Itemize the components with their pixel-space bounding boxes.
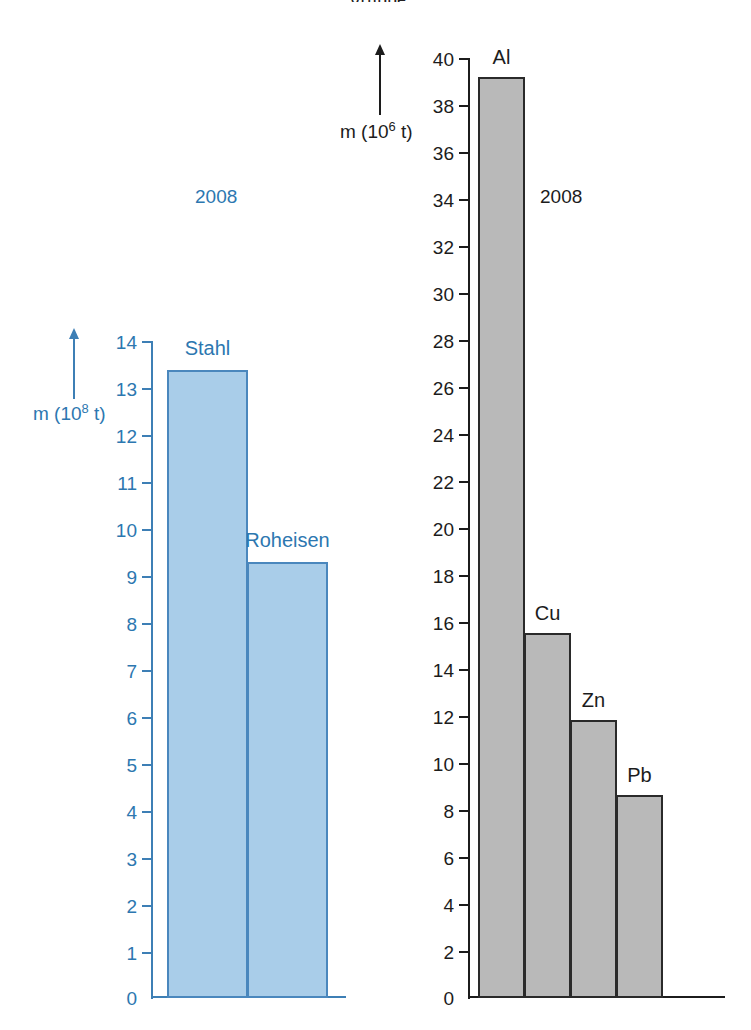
bar-al[interactable] <box>478 77 525 998</box>
chart-page: gruppe m (108 t) 2008 14 13 12 11 10 9 8… <box>0 0 751 1030</box>
y-tick-22 <box>459 481 468 483</box>
y-tick-24 <box>459 434 468 436</box>
y-tick-label-13: 13 <box>99 380 137 399</box>
y-tick-label-8: 8 <box>412 802 454 821</box>
year-label: 2008 <box>195 187 237 206</box>
y-tick-label-40: 40 <box>412 50 454 69</box>
y-tick-40 <box>459 58 468 60</box>
y-tick-11 <box>142 482 151 484</box>
unit-prefix: m (10 <box>340 121 389 142</box>
y-axis-arrow-icon <box>379 53 381 115</box>
y-tick-label-8: 8 <box>99 615 137 634</box>
y-tick-8 <box>459 810 468 812</box>
bar-label-roheisen: Roheisen <box>218 530 357 550</box>
bar-label-zn: Zn <box>570 690 617 710</box>
y-tick-30 <box>459 293 468 295</box>
unit-suffix: t) <box>89 403 106 424</box>
y-tick-5 <box>142 764 151 766</box>
y-tick-label-18: 18 <box>412 567 454 586</box>
y-tick-label-11: 11 <box>99 474 137 493</box>
bar-zn[interactable] <box>570 720 617 998</box>
y-tick-3 <box>142 858 151 860</box>
y-axis-unit-label: m (106 t) <box>340 122 413 141</box>
y-tick-6 <box>142 717 151 719</box>
y-tick-label-6: 6 <box>412 849 454 868</box>
y-axis-unit-label: m (108 t) <box>33 404 106 423</box>
y-tick-2 <box>142 905 151 907</box>
unit-exponent: 6 <box>389 119 396 134</box>
y-tick-13 <box>142 388 151 390</box>
y-tick-label-0: 0 <box>99 989 137 1008</box>
y-tick-32 <box>459 246 468 248</box>
y-tick-16 <box>459 622 468 624</box>
y-tick-9 <box>142 576 151 578</box>
y-tick-label-4: 4 <box>412 896 454 915</box>
y-tick-label-4: 4 <box>99 803 137 822</box>
bar-stahl[interactable] <box>167 370 248 998</box>
y-tick-28 <box>459 340 468 342</box>
y-tick-label-2: 2 <box>412 943 454 962</box>
y-tick-label-10: 10 <box>412 755 454 774</box>
y-tick-label-30: 30 <box>412 285 454 304</box>
y-tick-4 <box>459 904 468 906</box>
y-tick-26 <box>459 387 468 389</box>
unit-exponent: 8 <box>82 401 89 416</box>
y-tick-label-26: 26 <box>412 379 454 398</box>
chart-steel-production: m (108 t) 2008 14 13 12 11 10 9 8 7 6 5 … <box>0 0 400 1030</box>
y-tick-36 <box>459 152 468 154</box>
y-tick-10 <box>459 763 468 765</box>
y-tick-label-16: 16 <box>412 614 454 633</box>
y-tick-18 <box>459 575 468 577</box>
y-tick-label-9: 9 <box>99 568 137 587</box>
y-tick-7 <box>142 670 151 672</box>
y-axis-arrow-icon <box>73 337 75 399</box>
y-tick-label-22: 22 <box>412 473 454 492</box>
year-label: 2008 <box>540 187 582 206</box>
y-tick-label-38: 38 <box>412 97 454 116</box>
y-tick-2 <box>459 951 468 953</box>
chart-nonferrous-production: m (106 t) 2008 40 38 36 34 32 30 28 26 2… <box>355 0 751 1030</box>
y-tick-38 <box>459 105 468 107</box>
y-axis-line <box>468 58 470 999</box>
y-tick-label-20: 20 <box>412 520 454 539</box>
y-tick-label-0: 0 <box>412 989 454 1008</box>
y-tick-12 <box>142 435 151 437</box>
y-tick-label-2: 2 <box>99 897 137 916</box>
y-tick-34 <box>459 199 468 201</box>
y-tick-1 <box>142 952 151 954</box>
bar-label-al: Al <box>478 47 525 67</box>
y-tick-label-28: 28 <box>412 332 454 351</box>
y-tick-label-6: 6 <box>99 709 137 728</box>
y-tick-label-14: 14 <box>412 661 454 680</box>
y-tick-20 <box>459 528 468 530</box>
y-tick-label-24: 24 <box>412 426 454 445</box>
y-tick-label-7: 7 <box>99 662 137 681</box>
y-tick-label-12: 12 <box>99 427 137 446</box>
bar-label-stahl: Stahl <box>167 338 248 358</box>
y-tick-label-14: 14 <box>99 333 137 352</box>
y-tick-14 <box>459 669 468 671</box>
y-tick-label-3: 3 <box>99 850 137 869</box>
y-tick-12 <box>459 716 468 718</box>
y-tick-label-10: 10 <box>99 521 137 540</box>
y-tick-4 <box>142 811 151 813</box>
unit-suffix: t) <box>396 121 413 142</box>
y-tick-6 <box>459 857 468 859</box>
bar-roheisen[interactable] <box>247 562 328 998</box>
bar-pb[interactable] <box>616 795 663 998</box>
y-tick-label-34: 34 <box>412 191 454 210</box>
y-tick-8 <box>142 623 151 625</box>
y-tick-label-36: 36 <box>412 144 454 163</box>
y-axis-line <box>151 341 153 999</box>
y-tick-label-5: 5 <box>99 756 137 775</box>
y-tick-14 <box>142 341 151 343</box>
bar-label-pb: Pb <box>616 765 663 785</box>
bar-cu[interactable] <box>524 633 571 998</box>
y-tick-label-12: 12 <box>412 708 454 727</box>
bar-label-cu: Cu <box>524 603 571 623</box>
y-tick-label-32: 32 <box>412 238 454 257</box>
unit-prefix: m (10 <box>33 403 82 424</box>
y-tick-10 <box>142 529 151 531</box>
y-tick-label-1: 1 <box>99 944 137 963</box>
